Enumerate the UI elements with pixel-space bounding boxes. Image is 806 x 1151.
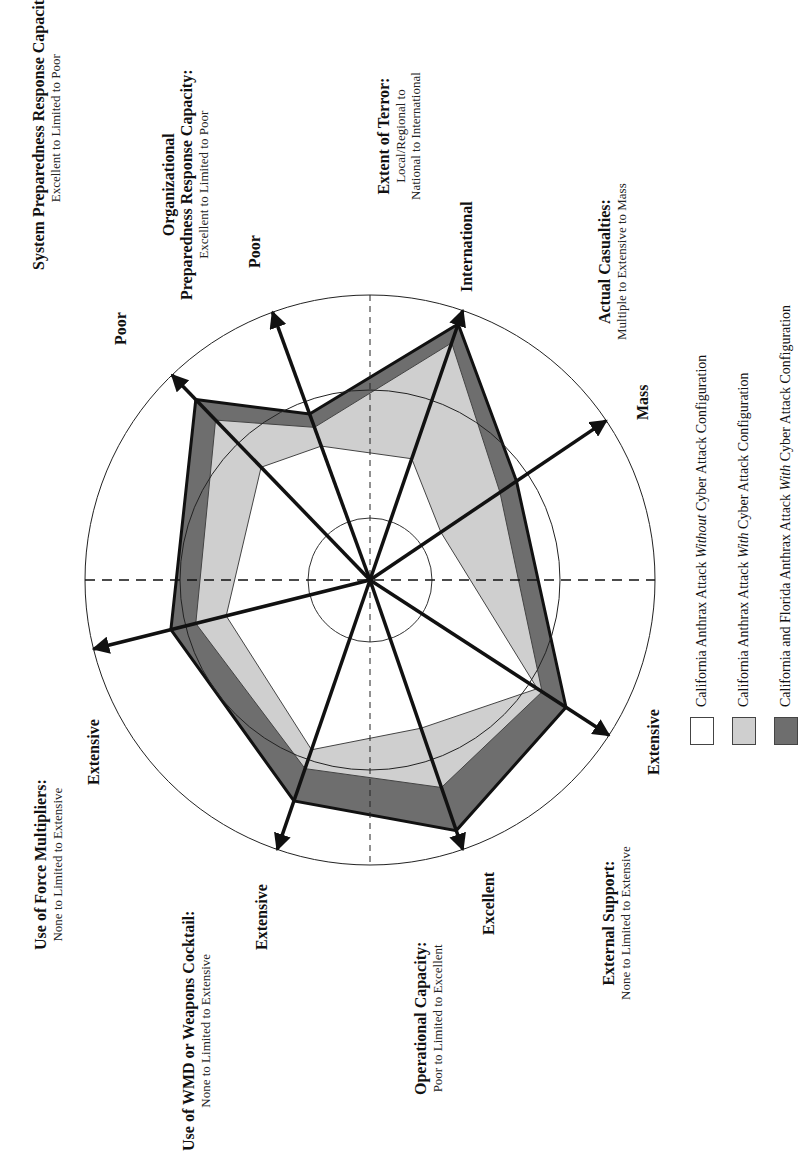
legend-label: California Anthrax Attack With Cyber Att…: [736, 373, 752, 707]
axis-title-casualties: Actual Casualties: Multiple to Extensive…: [596, 183, 629, 340]
axis-title-org-prep: Organizational Preparedness Response Cap…: [160, 69, 211, 300]
axis-title-operational: Operational Capacity: Poor to Limited to…: [412, 942, 445, 1095]
end-label-org-prep: Poor: [246, 235, 264, 268]
axis-title-external-support: External Support: None to Limited to Ext…: [600, 846, 633, 1000]
legend-label: California Anthrax Attack Without Cyber …: [694, 355, 710, 707]
end-label-wmd: Extensive: [253, 884, 271, 950]
legend-item-with-cyber: California Anthrax Attack With Cyber Att…: [732, 373, 756, 745]
legend-item-without-cyber: California Anthrax Attack Without Cyber …: [690, 355, 714, 745]
end-label-external-support: Extensive: [645, 709, 663, 775]
legend-label: California and Florida Anthrax Attack Wi…: [778, 305, 794, 707]
axis-title-wmd: Use of WMD or Weapons Cocktail: None to …: [180, 911, 213, 1151]
end-label-force-mult: Extensive: [85, 719, 103, 785]
legend-swatch: [732, 717, 756, 745]
end-label-terror: International: [458, 201, 476, 292]
axis-title-system-prep: System Preparedness Response Capacity: E…: [30, 0, 63, 270]
legend-swatch: [690, 717, 714, 745]
end-label-operational: Excellent: [480, 872, 498, 935]
axis-title-terror: Extent of Terror: Local/Regional to Nati…: [375, 72, 423, 200]
end-label-casualties: Mass: [634, 384, 652, 420]
end-label-system-prep: Poor: [112, 312, 130, 345]
legend-item-ca-fl-with-cyber: California and Florida Anthrax Attack Wi…: [774, 305, 798, 745]
axis-title-force-mult: Use of Force Multipliers: None to Limite…: [32, 779, 65, 950]
legend-swatch: [774, 717, 798, 745]
